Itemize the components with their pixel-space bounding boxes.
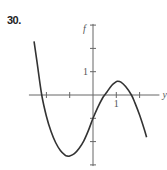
plot: y f 11 (0, 0, 167, 170)
y-axis-label: f (83, 23, 87, 34)
function-curve (34, 41, 147, 156)
x-tick-label: 1 (114, 98, 119, 109)
y-tick-label: 1 (83, 66, 88, 77)
x-axis-label: y (161, 89, 167, 100)
